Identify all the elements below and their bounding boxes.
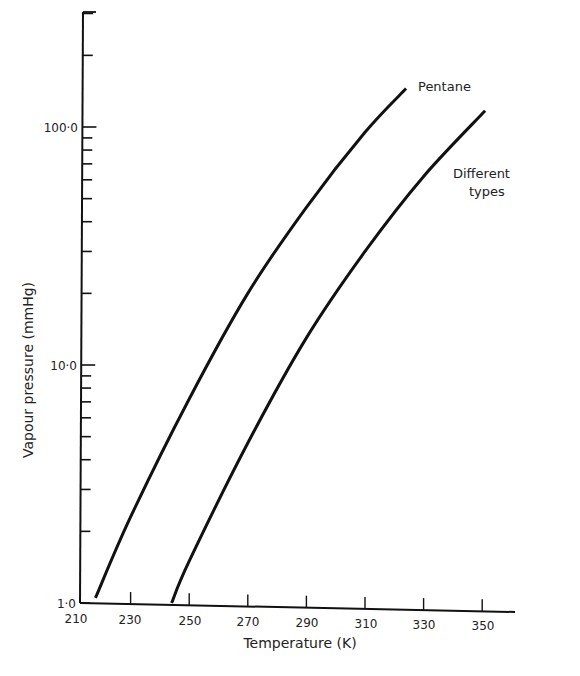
- series-label-pentane: Pentane: [418, 79, 471, 94]
- y-axis-title: Vapour pressure (mmHg): [20, 282, 36, 458]
- vapour-pressure-chart: 100·0 10·0 1·0 210 230 250 270 290 310 3…: [0, 0, 580, 676]
- x-tick-label: 270: [237, 615, 260, 629]
- y-axis-line: [80, 12, 83, 603]
- x-tick-label: 290: [296, 616, 319, 630]
- x-tick-label: 250: [179, 614, 202, 628]
- x-axis-line: [80, 603, 515, 612]
- x-tick-label: 330: [413, 618, 436, 632]
- series-label-different-types-line2: types: [469, 184, 505, 199]
- series-line-pentane: [95, 89, 406, 598]
- x-tick-label: 210: [65, 612, 88, 626]
- data-series: [95, 89, 485, 603]
- x-tick-label: 310: [355, 617, 378, 631]
- y-tick-label-100: 100·0: [44, 121, 78, 135]
- x-tick-label: 230: [119, 613, 142, 627]
- series-label-different-types-line1: Different: [453, 166, 510, 181]
- y-tick-label-10: 10·0: [50, 359, 77, 373]
- x-tick-labels: 210 230 250 270 290 310 330 350: [65, 612, 495, 633]
- x-axis-title: Temperature (K): [242, 635, 356, 651]
- y-tick-label-1: 1·0: [57, 597, 76, 611]
- x-tick-label: 350: [472, 619, 495, 633]
- series-line-different-types: [172, 111, 486, 603]
